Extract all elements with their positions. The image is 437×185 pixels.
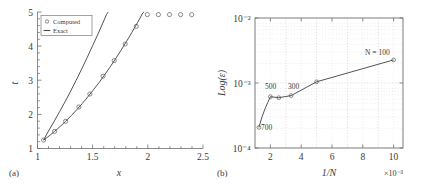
panel-a-xtick-1: 1 bbox=[35, 152, 40, 162]
panel-b-chart: N = 100 300 500 700 bbox=[215, 0, 437, 185]
panel-b-ylabel: Log(ε) bbox=[216, 69, 228, 97]
panel-a-xtick-4: 2.5 bbox=[197, 152, 209, 162]
panel-b-xtick-3: 6 bbox=[330, 152, 335, 162]
panel-b-xtick-2: 4 bbox=[299, 152, 304, 162]
panel-a-ytick-4: 4 bbox=[28, 42, 33, 52]
panel-a-ytick-3: 3 bbox=[28, 76, 33, 86]
panel-b-annot-n100: N = 100 bbox=[365, 48, 390, 57]
panel-a-ytick-2: 2 bbox=[28, 110, 33, 120]
panel-a-tag: (a) bbox=[9, 168, 19, 178]
panel-b-error-curve bbox=[259, 60, 394, 128]
panel-a-svg: Computed Exact 1 1.5 2 2.5 1 2 3 4 5 x t… bbox=[0, 0, 215, 185]
panel-a-xticks bbox=[38, 145, 204, 149]
panel-b-xtick-5: 10 bbox=[389, 152, 399, 162]
panel-b-annot-500: 500 bbox=[265, 82, 277, 91]
panel-a-legend[interactable]: Computed Exact bbox=[41, 16, 92, 36]
legend-label-computed: Computed bbox=[53, 18, 81, 25]
panel-a-xlabel: x bbox=[116, 167, 122, 178]
panel-b-ytick-1: 10⁻⁴ bbox=[233, 144, 252, 154]
panel-b-box bbox=[255, 18, 403, 148]
panel-b-ytick-3: 10⁻² bbox=[233, 14, 251, 24]
panel-b-xlabel: 1/N bbox=[322, 167, 338, 178]
panel-b-xtick-1: 2 bbox=[268, 152, 273, 162]
legend-label-exact: Exact bbox=[53, 27, 68, 34]
panel-b-annot-700: 700 bbox=[261, 123, 273, 132]
panel-a-xtick-3: 2 bbox=[145, 152, 150, 162]
panel-b-ytick-2: 10⁻³ bbox=[233, 79, 251, 89]
panel-b-x-multiplier: ×10⁻³ bbox=[384, 169, 404, 178]
panel-b-yticks bbox=[255, 18, 403, 148]
panel-b-data-markers bbox=[257, 58, 396, 129]
panel-a-ylabel: t bbox=[9, 81, 20, 84]
panel-b-xtick-4: 8 bbox=[360, 152, 365, 162]
figure-container: Computed Exact 1 1.5 2 2.5 1 2 3 4 5 x t… bbox=[0, 0, 437, 185]
panel-b-grid-horizontal bbox=[255, 23, 403, 128]
panel-a-ytick-1: 1 bbox=[28, 144, 33, 154]
panel-a-ytick-5: 5 bbox=[28, 8, 33, 18]
panel-a-xtick-2: 1.5 bbox=[87, 152, 99, 162]
panel-b-annot-300: 300 bbox=[288, 82, 300, 91]
panel-b-svg: N = 100 300 500 700 bbox=[215, 0, 437, 185]
panel-b-tag: (b) bbox=[217, 168, 228, 178]
panel-a-chart: Computed Exact 1 1.5 2 2.5 1 2 3 4 5 x t… bbox=[0, 0, 215, 185]
